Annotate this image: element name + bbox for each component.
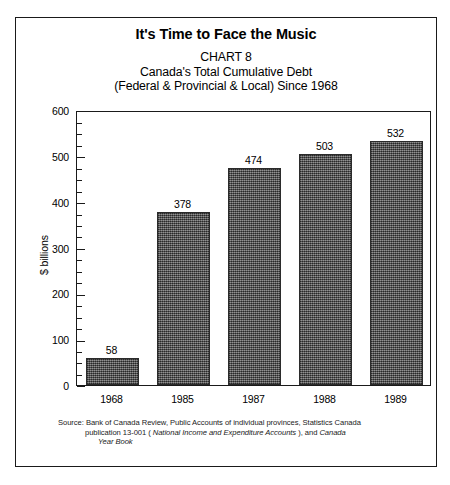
source-publication-suffix: ), and xyxy=(296,428,319,437)
y-axis-major-tick xyxy=(77,157,85,158)
subtitle-line-scope: (Federal & Provincial & Local) Since 196… xyxy=(16,79,436,94)
source-second-title-part1: Canada xyxy=(319,428,345,437)
y-axis-tick-label: 400 xyxy=(52,198,69,209)
y-axis-minor-tick xyxy=(77,306,82,307)
y-axis-tick-label: 0 xyxy=(63,381,69,392)
y-axis-minor-tick xyxy=(77,226,82,227)
x-axis-tick-label: 1987 xyxy=(221,394,286,405)
y-axis-major-tick xyxy=(77,386,85,387)
y-axis-minor-tick xyxy=(77,146,82,147)
bar-value-label: 58 xyxy=(85,345,138,356)
source-second-title-part2: Year Book xyxy=(58,437,408,447)
bar xyxy=(86,358,139,385)
subtitle-line-description: Canada's Total Cumulative Debt xyxy=(16,65,436,80)
subtitle-block: CHART 8 Canada's Total Cumulative Debt (… xyxy=(16,50,436,94)
source-publication-prefix: publication 13-001 ( xyxy=(85,428,153,437)
source-line-2: publication 13-001 ( National Income and… xyxy=(58,428,408,438)
bar xyxy=(370,141,423,385)
y-axis-major-tick xyxy=(77,341,85,342)
source-publication-title: National Income and Expenditure Accounts xyxy=(153,428,296,437)
y-axis-major-tick xyxy=(77,203,85,204)
x-axis-tick-label: 1985 xyxy=(150,394,215,405)
source-line-1: Source: Bank of Canada Review, Public Ac… xyxy=(58,418,408,428)
bar-value-label: 532 xyxy=(369,128,422,139)
y-axis-minor-tick xyxy=(77,272,82,273)
bar xyxy=(228,168,281,385)
y-axis-minor-tick xyxy=(77,352,82,353)
bar-value-label: 378 xyxy=(156,199,209,210)
y-axis-minor-tick xyxy=(77,375,82,376)
y-axis-minor-tick xyxy=(77,134,82,135)
y-axis-tick-label: 600 xyxy=(52,106,69,117)
bar-value-label: 503 xyxy=(298,141,351,152)
y-axis-minor-tick xyxy=(77,180,82,181)
source-note: Source: Bank of Canada Review, Public Ac… xyxy=(58,418,408,447)
y-axis-minor-tick xyxy=(77,318,82,319)
y-axis-minor-tick xyxy=(77,329,82,330)
title-block: It's Time to Face the Music CHART 8 Cana… xyxy=(16,26,436,94)
y-axis-major-tick xyxy=(77,295,85,296)
y-axis-title: $ billions xyxy=(38,235,50,275)
bar-value-label: 474 xyxy=(227,155,280,166)
subtitle-line-chart-number: CHART 8 xyxy=(16,50,436,65)
y-axis-minor-tick xyxy=(77,169,82,170)
bar xyxy=(299,154,352,385)
y-axis-major-tick xyxy=(77,249,85,250)
page-title: It's Time to Face the Music xyxy=(16,26,436,43)
y-axis-tick-label: 500 xyxy=(52,152,69,163)
bar xyxy=(157,212,210,385)
plot-inner xyxy=(77,112,430,385)
y-axis-tick-label: 100 xyxy=(52,335,69,346)
y-axis-minor-tick xyxy=(77,260,82,261)
y-axis-minor-tick xyxy=(77,215,82,216)
x-axis-tick-label: 1968 xyxy=(79,394,144,405)
y-axis-tick-label: 200 xyxy=(52,289,69,300)
y-axis-tick-label: 300 xyxy=(52,244,69,255)
y-axis-minor-tick xyxy=(77,283,82,284)
chart-figure: It's Time to Face the Music CHART 8 Cana… xyxy=(15,17,437,467)
y-axis-minor-tick xyxy=(77,363,82,364)
y-axis-major-tick xyxy=(77,111,85,112)
x-axis-tick-label: 1988 xyxy=(292,394,357,405)
y-axis-minor-tick xyxy=(77,237,82,238)
y-axis-minor-tick xyxy=(77,192,82,193)
x-axis-tick-label: 1989 xyxy=(363,394,428,405)
y-axis-minor-tick xyxy=(77,123,82,124)
